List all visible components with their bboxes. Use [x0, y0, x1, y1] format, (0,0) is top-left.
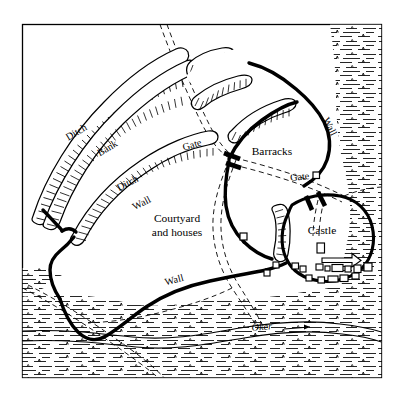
castle-building-6 [354, 265, 361, 273]
castle-building-3 [325, 266, 330, 271]
map-label-barracks: Barracks [252, 145, 293, 157]
castle-building-8 [300, 266, 306, 272]
outwork-building-2 [264, 270, 270, 276]
castle-building-7 [364, 263, 372, 271]
castle-building-10 [306, 275, 312, 281]
building-barracks [313, 172, 320, 179]
map-label-courtyard-2: and houses [152, 226, 203, 238]
building-courtyard [240, 233, 247, 240]
map-figure: DitchBankDitchWallGateBarracksWallGateCo… [0, 0, 405, 401]
castle-building-13 [340, 275, 348, 282]
map-canvas: DitchBankDitchWallGateBarracksWallGateCo… [0, 0, 405, 401]
castle-building-9 [292, 263, 299, 269]
map-label-courtyard: Courtyard [154, 212, 200, 224]
castle-building-1 [317, 243, 325, 253]
map-label-river: Oker [251, 320, 272, 332]
castle-building-5 [345, 266, 351, 272]
castle-building-2 [316, 264, 323, 270]
castle-building-12 [328, 276, 338, 282]
map-label-castle: Castle [308, 224, 336, 236]
castle-building-11 [318, 277, 325, 283]
map-label-gate-east: Gate [289, 170, 310, 183]
outwork-building-1 [273, 262, 279, 268]
castle-building-4 [332, 265, 343, 272]
castle-building-14 [352, 273, 359, 279]
